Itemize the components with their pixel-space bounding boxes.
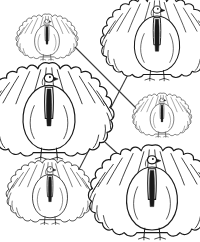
turkey-bottom-left[interactable]	[6, 159, 94, 224]
turkey-top-left[interactable]	[16, 14, 78, 60]
turkey-matching-scene	[0, 0, 200, 242]
turkey-middle-right[interactable]	[132, 93, 191, 137]
worksheet-canvas	[0, 0, 200, 242]
turkey-figures	[0, 0, 200, 240]
turkey-middle-left[interactable]	[0, 63, 114, 160]
turkey-top-right[interactable]	[100, 0, 200, 81]
turkey-bottom-right[interactable]	[88, 145, 200, 240]
